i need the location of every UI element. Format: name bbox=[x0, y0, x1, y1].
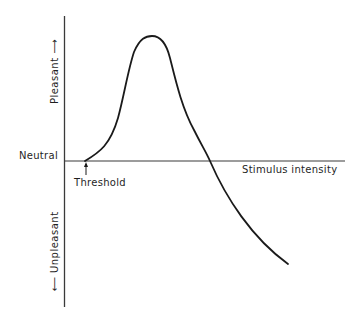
down-arrow-icon: ⟵ bbox=[49, 277, 60, 292]
x-axis-label: Stimulus intensity bbox=[242, 164, 337, 175]
unpleasant-text: Unpleasant bbox=[49, 211, 60, 273]
y-axis-pleasant-label: Pleasant ⟶ bbox=[49, 32, 60, 112]
neutral-label: Neutral bbox=[19, 150, 58, 161]
pleasant-text: Pleasant bbox=[49, 57, 60, 104]
hedonic-curve-figure: Pleasant ⟶ ⟵ Unpleasant Neutral Threshol… bbox=[0, 0, 362, 321]
up-arrow-icon: ⟶ bbox=[49, 39, 60, 54]
threshold-arrowhead-icon bbox=[84, 162, 88, 167]
y-axis-unpleasant-label: ⟵ Unpleasant bbox=[49, 206, 60, 298]
hedonic-curve bbox=[85, 36, 288, 264]
threshold-label: Threshold bbox=[74, 177, 126, 188]
